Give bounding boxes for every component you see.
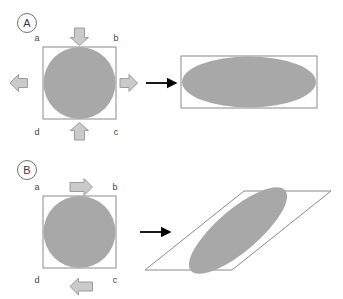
figure-canvas: A a b c d bbox=[0, 0, 343, 299]
panel-a-circle bbox=[44, 47, 116, 119]
panel-b-corner-label-b: b bbox=[112, 182, 117, 192]
panel-b-corner-label-a: a bbox=[34, 182, 39, 192]
panel-a-before-shape bbox=[43, 47, 116, 119]
panel-b-before-shape bbox=[43, 196, 116, 268]
panel-a-ellipse bbox=[182, 57, 316, 108]
panel-a-corner-label-a: a bbox=[34, 33, 39, 43]
panel-a-corner-label-b: b bbox=[113, 33, 118, 43]
panel-b-corner-label-d: d bbox=[34, 275, 39, 285]
panel-b-corner-label-c: c bbox=[113, 275, 118, 285]
panel-a-corner-label-d: d bbox=[34, 127, 39, 137]
panel-b-letter: B bbox=[23, 164, 30, 176]
panel-a-corner-label-c: c bbox=[114, 127, 119, 137]
panel-b-circle bbox=[44, 196, 116, 268]
panel-a-letter: A bbox=[23, 17, 31, 29]
panel-a-after-shape bbox=[181, 56, 317, 108]
